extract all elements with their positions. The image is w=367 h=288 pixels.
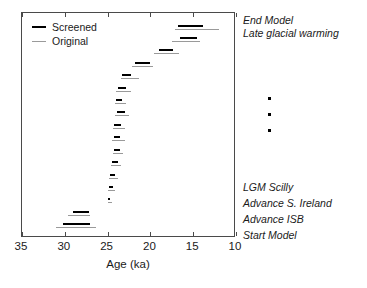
bar-original	[116, 91, 131, 92]
x-tick-label: 35	[6, 240, 36, 252]
bar-screened	[110, 174, 115, 176]
annotation-advance-isb: Advance ISB	[243, 213, 304, 225]
x-tick-bottom	[108, 232, 109, 236]
legend-item-screened: Screened	[32, 20, 128, 34]
x-tick-bottom	[150, 232, 151, 236]
bar-original	[115, 103, 125, 104]
x-tick-bottom	[236, 232, 237, 236]
bar-original	[109, 178, 118, 179]
x-tick-label: 15	[177, 240, 207, 252]
x-tick-label: 20	[134, 240, 164, 252]
bar-original	[111, 165, 121, 166]
bar-screened	[114, 149, 119, 151]
bar-screened	[114, 124, 121, 126]
legend-label-original: Original	[52, 34, 88, 48]
annotation-start-model: Start Model	[243, 229, 297, 241]
bar-original	[113, 153, 123, 154]
bar-screened	[63, 223, 90, 225]
bar-original	[175, 29, 219, 30]
x-axis-title: Age (ka)	[21, 258, 235, 270]
bar-screened	[180, 37, 197, 39]
bar-screened	[135, 62, 150, 64]
annotation-advance-s-ireland: Advance S. Ireland	[243, 197, 332, 209]
bar-original	[154, 53, 179, 54]
x-tick-top	[65, 13, 66, 17]
x-tick-top	[108, 13, 109, 17]
x-tick-top	[22, 13, 23, 17]
bar-screened	[117, 111, 125, 113]
x-tick-bottom	[193, 232, 194, 236]
bar-screened	[118, 87, 126, 89]
bar-original	[108, 190, 115, 191]
annotation-end-model: End Model	[243, 14, 293, 26]
annotation-late-glacial-warming: Late glacial warming	[243, 27, 339, 39]
annotation-lgm-scilly: LGM Scilly	[243, 181, 293, 193]
bar-original	[115, 115, 129, 116]
chart-legend: Screened Original	[32, 20, 128, 48]
chart-page: Screened Original 353025201510 Age (ka) …	[0, 0, 367, 288]
bar-screened	[112, 161, 118, 163]
bar-original	[108, 202, 112, 203]
bar-screened	[73, 211, 88, 213]
bar-screened	[178, 25, 204, 27]
bar-original	[132, 66, 153, 67]
bar-screened	[122, 74, 131, 76]
x-tick-top	[236, 13, 237, 17]
x-tick-bottom	[65, 232, 66, 236]
bar-original	[68, 215, 90, 216]
x-tick-top	[193, 13, 194, 17]
bar-original	[56, 227, 96, 228]
ellipsis-dot-2	[268, 113, 271, 116]
bar-screened	[116, 99, 122, 101]
legend-line-icon-original	[32, 41, 46, 42]
bar-screened	[109, 186, 112, 188]
legend-line-icon-screened	[32, 26, 46, 28]
bar-original	[121, 78, 139, 79]
x-tick-bottom	[22, 232, 23, 236]
bar-original	[172, 41, 200, 42]
bar-screened	[114, 136, 121, 138]
bar-screened	[159, 49, 173, 51]
bar-screened	[108, 198, 111, 200]
ellipsis-dot-3	[268, 129, 271, 132]
x-tick-top	[150, 13, 151, 17]
x-tick-label: 25	[92, 240, 122, 252]
bar-original	[113, 128, 125, 129]
legend-label-screened: Screened	[52, 20, 97, 34]
ellipsis-dot-1	[268, 97, 271, 100]
x-tick-label: 10	[220, 240, 250, 252]
bar-original	[112, 140, 125, 141]
x-tick-label: 30	[49, 240, 79, 252]
legend-item-original: Original	[32, 34, 128, 48]
